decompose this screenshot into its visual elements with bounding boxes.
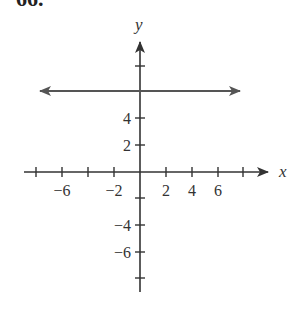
x-tick-label: 4	[188, 182, 196, 199]
x-axis-label: x	[278, 162, 287, 181]
coordinate-plane: −6 −2 2 4 6 x 4 2 −4 −6 y	[0, 0, 305, 311]
x-tick-label: 6	[214, 182, 222, 199]
x-tick-label: −2	[105, 182, 122, 199]
y-axis-label: y	[133, 15, 143, 34]
x-tick-label: 2	[162, 182, 170, 199]
y-tick-label: 2	[123, 137, 131, 154]
x-tick-label: −6	[53, 182, 70, 199]
y-tick-label: 4	[123, 110, 131, 127]
y-tick-label: −4	[114, 217, 131, 234]
x-axis: −6 −2 2 4 6 x	[24, 162, 287, 199]
y-axis: 4 2 −4 −6 y	[114, 15, 145, 292]
y-tick-label: −6	[114, 244, 131, 261]
